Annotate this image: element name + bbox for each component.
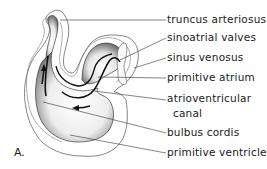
heart-tube-diagram (0, 0, 267, 169)
label-primitive-atrium: primitive atrium (167, 71, 255, 83)
panel-letter: A. (14, 146, 25, 159)
label-sinoatrial-valves: sinoatrial valves (167, 31, 256, 43)
label-atrioventricular: atrioventricular (167, 92, 251, 104)
label-primitive-ventricle: primitive ventricle (167, 146, 267, 158)
label-sinus-venosus: sinus venosus (167, 51, 243, 63)
sinus-venosus-horn (117, 43, 127, 84)
label-bulbus-cordis: bulbus cordis (167, 126, 239, 138)
label-truncus-arteriosus: truncus arteriosus (167, 13, 266, 25)
label-canal: canal (173, 107, 202, 119)
atrium-cavity (82, 43, 123, 84)
